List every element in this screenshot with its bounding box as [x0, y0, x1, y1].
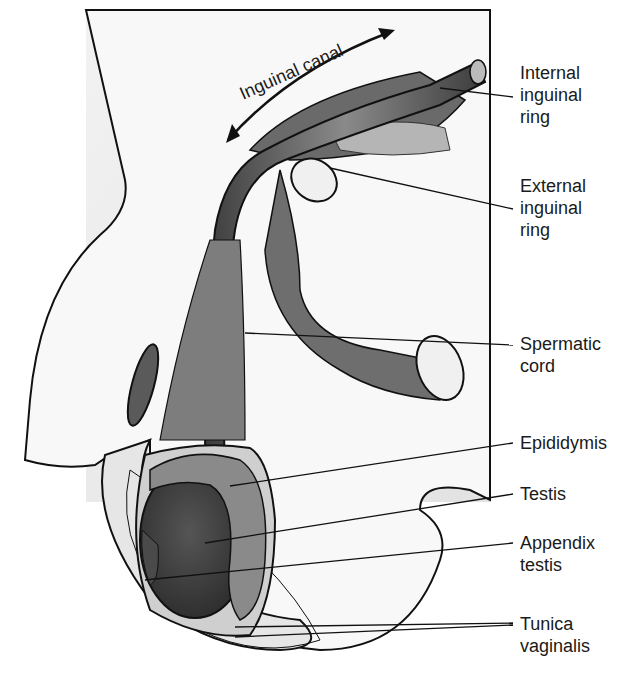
- cord-cut-end: [470, 60, 486, 84]
- label-line: cord: [520, 355, 601, 377]
- label-internal-inguinal-ring: Internal inguinal ring: [520, 62, 582, 128]
- label-line: External: [520, 175, 586, 197]
- label-line: inguinal: [520, 84, 582, 106]
- label-line: Testis: [520, 483, 566, 505]
- label-external-inguinal-ring: External inguinal ring: [520, 175, 586, 241]
- label-line: ring: [520, 106, 582, 128]
- label-line: Appendix: [520, 532, 595, 554]
- label-line: Tunica: [520, 613, 590, 635]
- label-line: testis: [520, 554, 595, 576]
- label-line: vaginalis: [520, 635, 590, 657]
- label-epididymis: Epididymis: [520, 432, 607, 454]
- label-line: inguinal: [520, 197, 586, 219]
- label-line: Spermatic: [520, 333, 601, 355]
- label-appendix-testis: Appendix testis: [520, 532, 595, 576]
- label-line: ring: [520, 219, 586, 241]
- label-spermatic-cord: Spermatic cord: [520, 333, 601, 377]
- label-line: Internal: [520, 62, 582, 84]
- label-line: Epididymis: [520, 432, 607, 454]
- label-tunica-vaginalis: Tunica vaginalis: [520, 613, 590, 657]
- label-testis: Testis: [520, 483, 566, 505]
